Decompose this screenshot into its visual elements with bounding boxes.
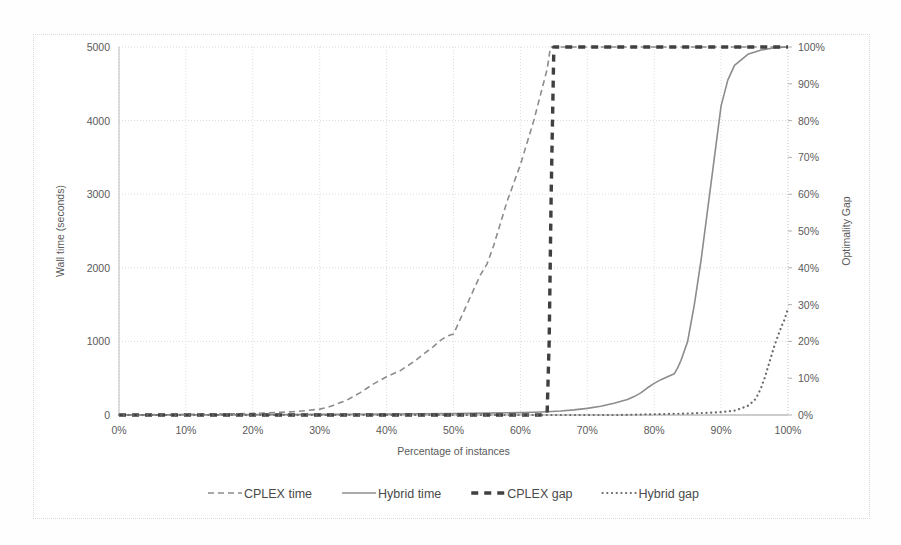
- legend-label-cplex-gap: CPLEX gap: [507, 487, 572, 501]
- ytick-label: 4000: [87, 115, 111, 127]
- y2tick-label: 40%: [798, 262, 819, 274]
- x-axis-title: Percentage of instances: [397, 445, 510, 457]
- y2tick-label: 100%: [798, 41, 825, 53]
- xtick-label: 80%: [644, 424, 665, 436]
- xtick-label: 50%: [443, 424, 464, 436]
- chart-root: 0100020003000400050000%10%20%30%40%50%60…: [0, 0, 901, 545]
- xtick-label: 40%: [376, 424, 397, 436]
- y2tick-label: 50%: [798, 225, 819, 237]
- ytick-label: 1000: [87, 335, 111, 347]
- y2tick-label: 0%: [798, 409, 813, 421]
- chart-legend: CPLEX timeHybrid timeCPLEX gapHybrid gap: [208, 487, 699, 501]
- y2tick-label: 30%: [798, 299, 819, 311]
- xtick-label: 0%: [111, 424, 126, 436]
- y-axis-title: Wall time (seconds): [54, 185, 66, 277]
- y2tick-label: 60%: [798, 188, 819, 200]
- y2tick-label: 20%: [798, 335, 819, 347]
- xtick-label: 100%: [775, 424, 802, 436]
- xtick-label: 20%: [242, 424, 263, 436]
- xtick-label: 60%: [510, 424, 531, 436]
- legend-label-cplex-time: CPLEX time: [244, 487, 312, 501]
- legend-label-hybrid-gap: Hybrid gap: [639, 487, 699, 501]
- y2tick-label: 80%: [798, 115, 819, 127]
- chart-frame: 0100020003000400050000%10%20%30%40%50%60…: [33, 34, 870, 519]
- y2tick-label: 70%: [798, 151, 819, 163]
- ytick-label: 5000: [87, 41, 111, 53]
- xtick-label: 90%: [711, 424, 732, 436]
- legend-label-hybrid-time: Hybrid time: [378, 487, 441, 501]
- xtick-label: 70%: [577, 424, 598, 436]
- ytick-label: 3000: [87, 188, 111, 200]
- ytick-label: 2000: [87, 262, 111, 274]
- ytick-label: 0: [104, 409, 110, 421]
- y2-axis-title: Optimality Gap: [840, 196, 852, 266]
- xtick-label: 30%: [309, 424, 330, 436]
- xtick-label: 10%: [175, 424, 196, 436]
- y2tick-label: 90%: [798, 78, 819, 90]
- y2tick-label: 10%: [798, 372, 819, 384]
- chart-canvas: 0100020003000400050000%10%20%30%40%50%60…: [34, 35, 867, 516]
